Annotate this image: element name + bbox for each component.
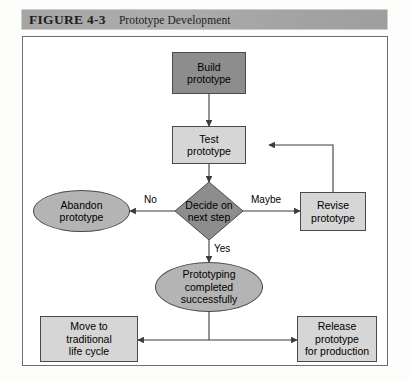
node-prototyping-completed-label: Prototyping completed successfully — [181, 268, 238, 306]
node-test-prototype-label: Test prototype — [187, 133, 231, 158]
node-test-prototype[interactable]: Test prototype — [172, 126, 246, 164]
node-abandon-prototype-label: Abandon prototype — [60, 199, 104, 224]
edge-label-maybe: Maybe — [251, 194, 281, 205]
node-revise-prototype[interactable]: Revise prototype — [300, 192, 366, 231]
node-move-to-traditional-life-cycle-label: Move to traditional life cycle — [66, 320, 112, 358]
node-decide-next-step-label: Decide on next step — [185, 199, 232, 224]
node-revise-prototype-label: Revise prototype — [311, 199, 355, 224]
node-move-to-traditional-life-cycle[interactable]: Move to traditional life cycle — [40, 316, 138, 362]
node-release-prototype-for-production[interactable]: Release prototype for production — [297, 316, 377, 362]
figure-number: FIGURE 4-3 — [29, 12, 106, 28]
node-build-prototype-label: Build prototype — [187, 61, 231, 86]
edge-label-no: No — [144, 194, 157, 205]
node-abandon-prototype[interactable]: Abandon prototype — [33, 190, 130, 232]
node-release-prototype-for-production-label: Release prototype for production — [305, 320, 369, 358]
figure-caption: Prototype Development — [119, 14, 231, 26]
node-decide-next-step[interactable]: Decide on next step — [175, 182, 243, 240]
node-prototyping-completed[interactable]: Prototyping completed successfully — [155, 262, 263, 312]
edge-label-yes: Yes — [214, 243, 230, 254]
node-build-prototype[interactable]: Build prototype — [172, 52, 246, 94]
figure-title-banner: FIGURE 4-3 Prototype Development — [22, 10, 387, 29]
